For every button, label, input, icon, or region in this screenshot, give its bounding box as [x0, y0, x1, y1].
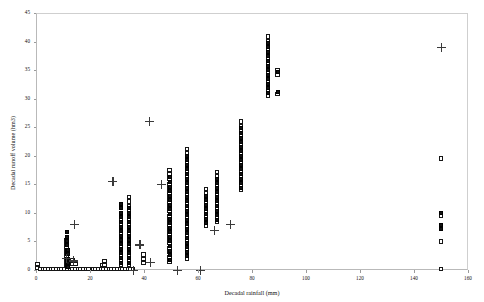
data-point-filled-square	[127, 211, 131, 215]
data-point-filled-square	[66, 248, 70, 252]
x-tick-label: 140	[410, 276, 418, 281]
data-point-filled-square	[168, 180, 172, 184]
data-point-filled-square	[215, 186, 219, 190]
data-point-open-square	[167, 168, 171, 172]
y-tick-mark	[34, 13, 37, 14]
data-point-filled-square	[239, 186, 243, 190]
data-point-plus	[145, 117, 154, 126]
y-tick-label: 5	[16, 239, 30, 244]
x-tick-mark	[468, 270, 469, 273]
data-point-filled-square	[239, 163, 243, 167]
data-point-open-square	[204, 187, 208, 191]
data-point-filled-square	[185, 199, 189, 203]
y-tick-label: 35	[16, 68, 30, 73]
x-tick-label: 20	[87, 276, 92, 281]
x-tick-mark	[360, 270, 361, 273]
y-tick-label: 10	[16, 210, 30, 215]
data-point-filled-square	[185, 231, 189, 235]
data-point-filled-square	[185, 218, 189, 222]
data-point-open-square	[102, 259, 106, 263]
data-point-filled-square	[239, 145, 243, 149]
data-point-filled-square	[185, 167, 189, 171]
data-point-filled-square	[185, 154, 189, 158]
data-point-filled-square	[168, 212, 172, 216]
data-point-filled-square	[239, 140, 243, 144]
data-point-filled-square	[66, 265, 70, 269]
data-point-filled-square	[204, 198, 208, 202]
x-tick-label: 40	[141, 276, 146, 281]
data-point-filled-square	[239, 181, 243, 185]
data-point-filled-square	[185, 186, 189, 190]
data-point-filled-square	[168, 235, 172, 239]
data-point-filled-square	[168, 221, 172, 225]
y-tick-mark	[34, 184, 37, 185]
data-point-filled-square	[204, 221, 208, 225]
plot-data-area	[0, 0, 484, 302]
y-axis-title: Decadal runoff volume (hm3)	[9, 116, 16, 190]
data-point-filled-square	[127, 215, 131, 219]
data-point-filled-square	[185, 177, 189, 181]
data-point-filled-square	[127, 229, 131, 233]
y-tick-label: 20	[16, 153, 30, 158]
data-point-filled-square	[239, 154, 243, 158]
data-point-filled-square	[215, 209, 219, 213]
data-point-open-square	[239, 119, 243, 123]
data-point-plus	[437, 43, 446, 52]
data-point-filled-square	[204, 212, 208, 216]
data-point-filled-square	[119, 242, 123, 246]
data-point-filled-square	[168, 226, 172, 230]
data-point-plus	[69, 256, 78, 265]
y-tick-mark	[34, 70, 37, 71]
data-point-filled-square	[127, 225, 131, 229]
data-point-filled-square	[439, 223, 443, 227]
data-point-filled-square	[119, 202, 123, 206]
data-point-plus	[210, 226, 219, 235]
y-tick-mark	[34, 241, 37, 242]
y-tick-label: 40	[16, 39, 30, 44]
data-point-filled-square	[239, 149, 243, 153]
data-point-filled-square	[127, 206, 131, 210]
data-point-filled-square	[65, 235, 69, 239]
data-point-filled-square	[168, 198, 172, 202]
data-point-plus	[129, 266, 138, 275]
data-point-open-square	[127, 199, 131, 203]
data-point-filled-square	[439, 227, 443, 231]
data-point-filled-square	[239, 158, 243, 162]
data-point-filled-square	[185, 172, 189, 176]
y-tick-label: 45	[16, 10, 30, 15]
y-tick-mark	[34, 99, 37, 100]
data-point-open-square	[215, 170, 219, 174]
x-tick-label: 0	[35, 276, 38, 281]
data-point-filled-square	[168, 253, 172, 257]
data-point-filled-square	[65, 243, 69, 247]
data-point-filled-square	[204, 217, 208, 221]
data-point-filled-square	[168, 258, 172, 262]
data-point-filled-square	[439, 211, 443, 215]
data-point-open-square	[439, 267, 443, 271]
data-point-filled-square	[215, 195, 219, 199]
data-point-filled-square	[266, 86, 270, 90]
data-point-filled-square	[185, 204, 189, 208]
x-axis-title: Decadal rainfall (mm)	[102, 289, 402, 296]
data-point-filled-square	[168, 230, 172, 234]
data-point-filled-square	[204, 207, 208, 211]
data-point-plus	[173, 266, 182, 275]
data-point-filled-square	[168, 189, 172, 193]
y-tick-label: 25	[16, 125, 30, 130]
data-point-filled-square	[168, 185, 172, 189]
data-point-filled-square	[215, 218, 219, 222]
data-point-open-square	[439, 156, 443, 160]
data-point-filled-square	[168, 217, 172, 221]
data-point-filled-square	[185, 241, 189, 245]
data-point-filled-square	[239, 172, 243, 176]
x-tick-label: 80	[249, 276, 254, 281]
x-tick-label: 60	[195, 276, 200, 281]
x-tick-mark	[198, 270, 199, 273]
data-point-open-square	[127, 195, 131, 199]
data-point-open-square	[102, 263, 106, 267]
data-point-filled-square	[185, 213, 189, 217]
data-point-filled-square	[204, 194, 208, 198]
data-point-filled-square	[127, 261, 131, 265]
x-tick-mark	[252, 270, 253, 273]
x-tick-label: 160	[464, 276, 472, 281]
